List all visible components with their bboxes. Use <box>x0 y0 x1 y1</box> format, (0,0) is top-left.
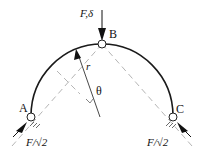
label-point-b: B <box>109 27 117 41</box>
label-load: F,δ <box>79 7 94 19</box>
support-hatch-a <box>30 122 40 128</box>
label-point-c: C <box>176 102 184 116</box>
arch-curve <box>31 44 173 116</box>
arch-diagram: F,δ B A C r θ F/√2 F/√2 <box>0 0 203 151</box>
label-reaction-c: F/√2 <box>146 136 169 148</box>
pin-a <box>27 113 35 121</box>
reaction-arrow-a <box>16 122 27 133</box>
label-angle: θ <box>96 84 102 98</box>
label-radius: r <box>86 60 91 72</box>
right-angle-mark <box>86 99 93 103</box>
reaction-arrow-c <box>177 122 188 133</box>
load-arrowhead <box>98 28 106 41</box>
label-point-a: A <box>19 101 28 115</box>
label-reaction-a: F/√2 <box>25 136 48 148</box>
pin-b <box>98 40 106 48</box>
